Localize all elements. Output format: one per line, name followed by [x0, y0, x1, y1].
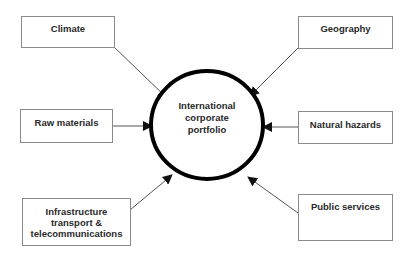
factor-label: Infrastructure [23, 206, 130, 217]
edge-public-services [248, 177, 298, 213]
factor-label: Climate [22, 23, 114, 34]
edge-climate [114, 47, 167, 98]
center-label-line: corporate [160, 112, 254, 124]
edge-geography [250, 48, 298, 96]
factor-box-climate: Climate [21, 16, 115, 48]
factor-label: telecommunications [23, 228, 130, 239]
center-label-line: portfolio [160, 124, 254, 136]
factor-box-public-services: Public services [298, 194, 393, 241]
factor-label: Natural hazards [299, 119, 392, 130]
factor-box-infrastructure: Infrastructure transport & telecommunica… [22, 198, 131, 246]
factor-label: Public services [299, 201, 392, 212]
factor-label: Raw materials [21, 117, 112, 128]
factor-label: transport & [23, 217, 130, 228]
edge-infrastructure [130, 175, 172, 210]
factor-label: Geography [299, 23, 392, 34]
center-label-line: International [160, 100, 254, 112]
factor-box-raw-materials: Raw materials [20, 109, 113, 143]
center-node-label: International corporate portfolio [160, 100, 254, 136]
factor-box-natural-hazards: Natural hazards [298, 111, 393, 144]
factor-box-geography: Geography [298, 16, 393, 49]
